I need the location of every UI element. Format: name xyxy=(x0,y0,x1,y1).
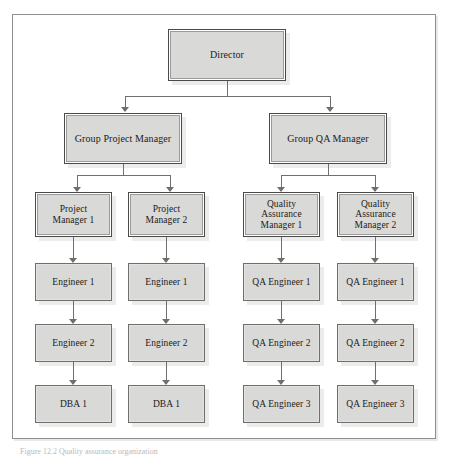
connector-c1e1-to-c1e2 xyxy=(73,301,74,320)
connector-c2e2-to-c2e3 xyxy=(166,362,167,381)
node-label: Engineer 2 xyxy=(50,338,96,349)
node-label: QA Engineer 3 xyxy=(250,399,312,410)
figure-caption: Figure 12.2 Quality assurance organizati… xyxy=(20,447,440,456)
connector-pm2-to-e1 xyxy=(166,237,167,259)
arrowhead-to-gpm xyxy=(121,107,129,112)
node-col3-qa-engineer-3[interactable]: QA Engineer 3 xyxy=(243,385,320,423)
node-label: QA Engineer 3 xyxy=(344,399,406,410)
arrowhead-to-gqam xyxy=(326,107,334,112)
connector-pm1-to-e1 xyxy=(73,237,74,259)
connector-c3e1-to-c3e2 xyxy=(281,301,282,320)
node-project-manager-2[interactable]: Project Manager 2 xyxy=(128,192,205,237)
node-col4-qa-engineer-1[interactable]: QA Engineer 1 xyxy=(337,263,414,301)
node-director[interactable]: Director xyxy=(168,29,286,81)
node-qa-manager-1[interactable]: Quality Assurance Manager 1 xyxy=(243,192,320,237)
node-label: Engineer 1 xyxy=(143,277,189,288)
node-label: Engineer 2 xyxy=(143,338,189,349)
connector-c3e2-to-c3e3 xyxy=(281,362,282,381)
node-col2-engineer-1[interactable]: Engineer 1 xyxy=(128,263,205,301)
node-label: Group QA Manager xyxy=(285,133,371,144)
node-col3-qa-engineer-2[interactable]: QA Engineer 2 xyxy=(243,324,320,362)
connector-c2e1-to-c2e2 xyxy=(166,301,167,320)
connector-gqam-bus xyxy=(281,175,375,176)
node-group-qa-manager[interactable]: Group QA Manager xyxy=(269,113,387,164)
node-label: DBA 1 xyxy=(58,399,89,410)
connector-gqam-stem xyxy=(328,164,329,175)
node-col2-engineer-2[interactable]: Engineer 2 xyxy=(128,324,205,362)
node-col1-engineer-1[interactable]: Engineer 1 xyxy=(35,263,112,301)
node-label: Quality Assurance Manager 2 xyxy=(353,199,399,231)
connector-gpm-stem xyxy=(123,164,124,175)
connector-qam2-to-e1 xyxy=(375,237,376,259)
node-label: Engineer 1 xyxy=(50,277,96,288)
node-col1-engineer-2[interactable]: Engineer 2 xyxy=(35,324,112,362)
connector-qam1-to-e1 xyxy=(281,237,282,259)
org-chart: Director Group Project Manager Group QA … xyxy=(0,0,453,459)
connector-c1e2-to-c1e3 xyxy=(73,362,74,381)
node-label: Project Manager 2 xyxy=(144,204,190,225)
connector-director-bus xyxy=(125,96,330,97)
node-label: DBA 1 xyxy=(151,399,182,410)
node-label: QA Engineer 1 xyxy=(250,277,312,288)
node-col4-qa-engineer-2[interactable]: QA Engineer 2 xyxy=(337,324,414,362)
connector-c4e1-to-c4e2 xyxy=(375,301,376,320)
node-col1-dba-1[interactable]: DBA 1 xyxy=(35,385,112,423)
node-project-manager-1[interactable]: Project Manager 1 xyxy=(35,192,112,237)
node-label: QA Engineer 2 xyxy=(344,338,406,349)
figure-page: Director Group Project Manager Group QA … xyxy=(0,0,453,459)
node-label: Quality Assurance Manager 1 xyxy=(259,199,305,231)
node-col4-qa-engineer-3[interactable]: QA Engineer 3 xyxy=(337,385,414,423)
node-label: Director xyxy=(208,49,246,60)
node-group-project-manager[interactable]: Group Project Manager xyxy=(64,113,182,164)
node-label: Project Manager 1 xyxy=(51,204,97,225)
node-col3-qa-engineer-1[interactable]: QA Engineer 1 xyxy=(243,263,320,301)
connector-gpm-bus xyxy=(77,175,170,176)
node-label: QA Engineer 1 xyxy=(344,277,406,288)
node-qa-manager-2[interactable]: Quality Assurance Manager 2 xyxy=(337,192,414,237)
connector-c4e2-to-c4e3 xyxy=(375,362,376,381)
node-label: QA Engineer 2 xyxy=(250,338,312,349)
connector-director-stem xyxy=(227,81,228,96)
node-col2-dba-1[interactable]: DBA 1 xyxy=(128,385,205,423)
node-label: Group Project Manager xyxy=(73,133,174,144)
